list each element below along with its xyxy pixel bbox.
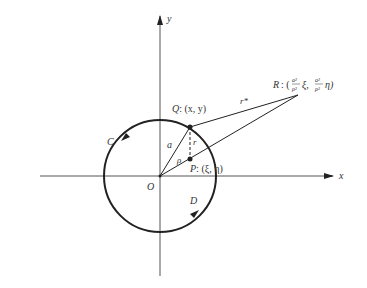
point-r-label: R : ( a² ρ² ξ, a² ρ² η) [272, 77, 334, 92]
circle-label: C [107, 136, 114, 147]
svg-text:ξ,: ξ, [302, 79, 309, 91]
svg-text:η): η) [325, 79, 334, 91]
point-p [188, 157, 193, 162]
point-q [188, 125, 193, 130]
svg-text:a²: a² [292, 77, 297, 83]
point-q-label: Q: (x, y) [172, 103, 206, 115]
origin-label: O [147, 181, 154, 192]
svg-text:ρ²: ρ² [314, 86, 320, 92]
inverse-point-diagram: y x O C D Q: (x, y) P: (ξ, η) R : ( a² ρ… [0, 0, 367, 288]
region-label: D [189, 195, 198, 206]
segment-r-label: r [193, 137, 197, 147]
segment-rho-label: ρ [176, 155, 182, 165]
svg-text:a²: a² [315, 77, 320, 83]
svg-text:: (: : ( [281, 79, 290, 91]
svg-text:R: R [272, 79, 279, 90]
segment-a-label: a [167, 139, 172, 150]
segment-a [160, 127, 190, 176]
x-axis-label: x [338, 170, 344, 181]
y-axis-label: y [166, 13, 172, 24]
segment-r-star-label: r* [240, 96, 249, 106]
point-o [159, 175, 162, 178]
svg-text:ρ²: ρ² [291, 86, 297, 92]
point-p-label: P: (ξ, η) [189, 163, 223, 175]
